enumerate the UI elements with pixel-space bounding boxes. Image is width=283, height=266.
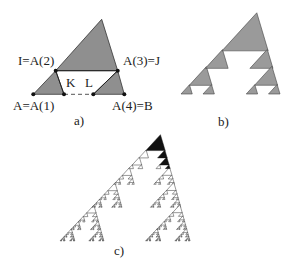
- fractal-triangle: [92, 213, 97, 217]
- fractal-triangle: [172, 190, 177, 194]
- fractal-dark-tip: [165, 165, 170, 169]
- fractal-triangle: [181, 85, 192, 94]
- fractal-triangle: [159, 175, 164, 179]
- label-point-b: A(4)=B: [112, 98, 153, 113]
- fractal-triangle: [72, 237, 74, 239]
- point-k-dot: [62, 92, 66, 96]
- fractal-triangle: [119, 175, 124, 179]
- fractal-triangle: [203, 85, 214, 94]
- fractal-triangle: [156, 165, 161, 169]
- point-j-dot: [116, 69, 120, 73]
- right-triangle: [93, 71, 124, 95]
- point-l-dot: [91, 92, 95, 96]
- fractal-triangle: [114, 190, 119, 194]
- fractal-triangle: [138, 165, 143, 169]
- label-point-k: K: [66, 75, 76, 90]
- fractal-triangle: [139, 150, 149, 158]
- fractal-triangle: [189, 67, 212, 86]
- fractal-triangle: [246, 85, 257, 94]
- panel-c: [60, 135, 190, 241]
- fractal-triangle: [128, 175, 133, 179]
- fractal-triangle: [255, 66, 278, 85]
- fractal-triangle: [205, 50, 228, 69]
- panel-a: I=A(2) A(3)=J A=A(1) A(4)=B K L a): [13, 19, 160, 128]
- top-triangle: [56, 19, 118, 70]
- fractal-triangle: [169, 212, 174, 216]
- fractal-triangle: [178, 212, 183, 216]
- label-point-j: A(3)=J: [123, 53, 160, 68]
- label-point-a: A=A(1): [13, 98, 54, 113]
- fractal-triangle: [173, 205, 183, 213]
- label-point-l: L: [85, 75, 93, 90]
- fractal-triangle: [163, 190, 168, 194]
- caption-c: c): [114, 243, 124, 258]
- fractal-dark-tip: [158, 150, 168, 158]
- panel-b: [181, 13, 280, 94]
- fractal-triangle: [104, 190, 109, 194]
- fractal-triangle: [132, 157, 142, 165]
- fractal-triangle: [168, 175, 173, 179]
- point-i-dot: [54, 69, 58, 73]
- caption-b: b): [218, 114, 229, 129]
- point-a-dot: [31, 92, 35, 96]
- fractal-triangle: [83, 213, 88, 217]
- fractal-triangle: [187, 237, 189, 239]
- fractal-figure: I=A(2) A(3)=J A=A(1) A(4)=B K L a) b) c): [0, 0, 283, 266]
- fractal-dark-tip: [160, 157, 170, 165]
- point-b-dot: [122, 92, 126, 96]
- fractal-dark-tip: [146, 135, 165, 151]
- caption-a: a): [74, 113, 84, 128]
- fractal-triangle: [268, 85, 280, 94]
- fractal-triangle: [222, 13, 268, 51]
- label-point-i: I=A(2): [18, 53, 54, 68]
- fractal-triangle: [129, 165, 134, 169]
- fractal-triangle: [250, 49, 273, 68]
